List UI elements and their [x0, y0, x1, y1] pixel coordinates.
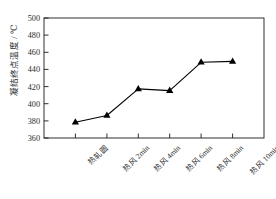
x-tick-label: 热风 6min — [185, 144, 214, 173]
chart-figure: 凝结终点温度 / ℃ 500 480 460 440 420 400 380 3… — [0, 0, 276, 199]
x-axis-tick-labels: 热轧圆 热风 2min 热风 4min 热风 6min 热风 8min 热风 1… — [0, 0, 276, 199]
x-tick-label: 热风 4min — [153, 144, 182, 173]
x-tick-label: 热风 10min — [249, 144, 276, 176]
x-tick-label: 热轧圆 — [87, 144, 109, 166]
x-tick-label: 热风 8min — [216, 144, 245, 173]
x-tick-label: 热风 2min — [122, 144, 151, 173]
